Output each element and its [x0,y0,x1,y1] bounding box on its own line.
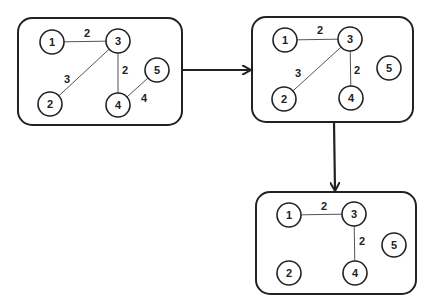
node-label: 1 [282,34,288,46]
node-label: 4 [348,92,355,104]
edge-weight-label: 2 [122,64,128,76]
edge-weight-label: 2 [317,24,323,36]
node-label: 3 [347,33,353,45]
edge-weight-label: 2 [354,64,360,76]
node-label: 5 [154,64,160,76]
edge-1-3 [64,41,106,42]
node-label: 3 [351,208,357,220]
node-label: 5 [386,62,392,74]
node-label: 5 [391,239,397,251]
edge-weight-label: 2 [84,27,90,39]
edge-3-4 [354,226,355,261]
edge-weight-label: 2 [359,235,365,247]
node-label: 1 [286,209,292,221]
edge-weight-label: 3 [64,73,70,85]
node-label: 4 [352,267,359,279]
edge-weight-label: 4 [141,92,148,104]
edge-1-3 [301,214,342,215]
node-label: 3 [115,35,121,47]
graph-diagram: 232412345232123452212345 [0,0,440,307]
node-label: 1 [49,36,55,48]
edge-1-3 [297,39,338,40]
node-label: 2 [47,98,53,110]
edge-weight-label: 3 [295,67,301,79]
node-label: 2 [286,267,292,279]
edge-3-4 [350,51,351,86]
node-label: 2 [281,93,287,105]
node-label: 4 [115,99,122,111]
edge-weight-label: 2 [321,200,327,212]
arrow-down [334,122,335,190]
